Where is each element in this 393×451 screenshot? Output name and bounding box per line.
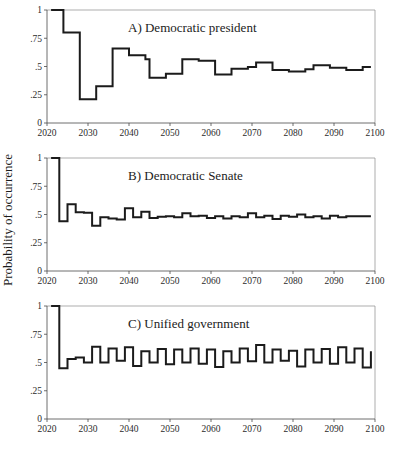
x-tick-label: 2070 (243, 276, 262, 286)
y-tick-label: 1 (37, 301, 42, 311)
y-tick-label: .25 (30, 238, 42, 248)
y-tick-label: 0 (37, 414, 42, 424)
x-tick-label: 2100 (366, 424, 385, 434)
y-tick-label: .25 (30, 90, 42, 100)
y-axis-title: Probability of occurrence (0, 154, 15, 286)
y-tick-label: 0 (37, 266, 42, 276)
x-tick-label: 2080 (284, 424, 303, 434)
x-tick-label: 2100 (366, 128, 385, 138)
x-tick-label: 2040 (120, 276, 139, 286)
panel-title: A) Democratic president (128, 20, 257, 35)
x-tick-label: 2080 (284, 276, 303, 286)
y-tick-label: 1 (37, 153, 42, 163)
y-tick-label: .75 (30, 182, 42, 192)
y-tick-label: .5 (35, 62, 42, 72)
x-tick-label: 2050 (161, 276, 180, 286)
x-tick-label: 2040 (120, 424, 139, 434)
x-tick-label: 2090 (325, 128, 344, 138)
chart-panel: 0.25.5.751202020302040205020602070208020… (30, 5, 385, 138)
x-tick-label: 2060 (202, 128, 221, 138)
y-tick-label: .25 (30, 386, 42, 396)
panel-title: B) Democratic Senate (128, 168, 243, 183)
x-tick-label: 2040 (120, 128, 139, 138)
y-tick-label: .5 (35, 210, 42, 220)
figure-probability-of-occurrence: Probability of occurrence 0.25.5.7512020… (0, 0, 393, 451)
x-tick-label: 2050 (161, 128, 180, 138)
x-tick-label: 2030 (79, 128, 98, 138)
x-tick-label: 2090 (325, 424, 344, 434)
y-tick-label: .75 (30, 34, 42, 44)
x-tick-label: 2060 (202, 424, 221, 434)
x-tick-label: 2020 (38, 276, 57, 286)
x-tick-label: 2080 (284, 128, 303, 138)
y-tick-label: .75 (30, 330, 42, 340)
x-tick-label: 2090 (325, 276, 344, 286)
x-tick-label: 2020 (38, 424, 57, 434)
x-tick-label: 2030 (79, 424, 98, 434)
y-tick-label: .5 (35, 358, 42, 368)
x-tick-label: 2060 (202, 276, 221, 286)
x-tick-label: 2070 (243, 424, 262, 434)
chart-panel: 0.25.5.751202020302040205020602070208020… (30, 153, 385, 286)
chart-panel: 0.25.5.751202020302040205020602070208020… (30, 301, 385, 434)
y-tick-label: 1 (37, 5, 42, 15)
panel-title: C) Unified government (128, 316, 250, 331)
x-tick-label: 2050 (161, 424, 180, 434)
x-tick-label: 2020 (38, 128, 57, 138)
x-tick-label: 2070 (243, 128, 262, 138)
x-tick-label: 2100 (366, 276, 385, 286)
y-tick-label: 0 (37, 118, 42, 128)
x-tick-label: 2030 (79, 276, 98, 286)
